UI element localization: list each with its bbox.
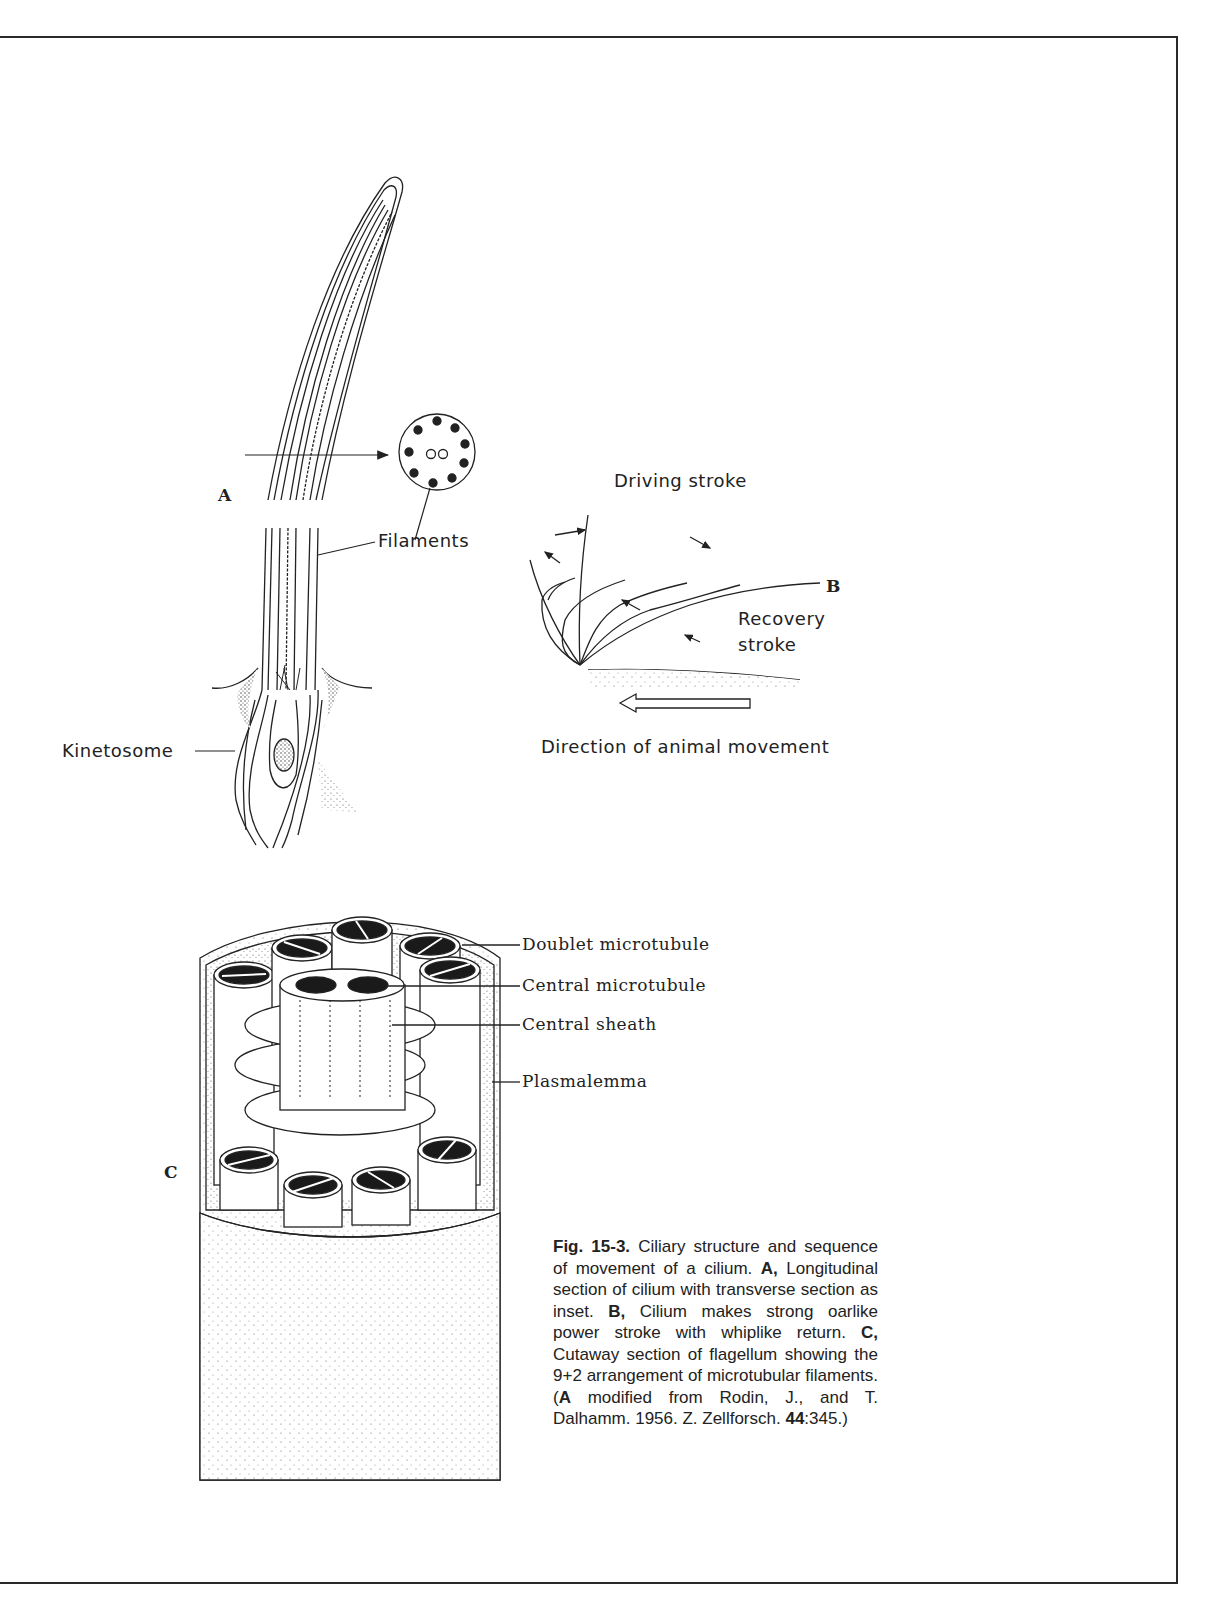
label-plasmalemma: Plasmalemma bbox=[522, 1071, 647, 1091]
panel-b-letter: B bbox=[826, 576, 841, 596]
caption-fig-label: Fig. 15-3. bbox=[553, 1237, 630, 1256]
panel-c-flagellum bbox=[200, 917, 520, 1480]
direction-arrow bbox=[620, 694, 750, 712]
label-central-microtubule: Central microtubule bbox=[522, 975, 706, 995]
panel-c-letter: C bbox=[164, 1162, 178, 1182]
label-doublet-microtubule: Doublet microtubule bbox=[522, 934, 709, 954]
inset-cross-section bbox=[399, 414, 475, 490]
label-driving-stroke: Driving stroke bbox=[614, 470, 747, 491]
label-recovery-stroke-2: stroke bbox=[738, 634, 796, 655]
caption-text-6: :345.) bbox=[804, 1409, 847, 1428]
caption-c-label: C, bbox=[861, 1323, 878, 1342]
caption-a-label: A, bbox=[761, 1259, 778, 1278]
label-recovery-stroke-1: Recovery bbox=[738, 608, 825, 629]
label-filaments: Filaments bbox=[378, 530, 469, 551]
label-kinetosome: Kinetosome bbox=[62, 740, 173, 761]
caption-b-label: B, bbox=[608, 1302, 625, 1321]
panel-a-letter: A bbox=[218, 485, 232, 505]
caption-volume: 44 bbox=[785, 1409, 804, 1428]
figure-caption: Fig. 15-3. Ciliary structure and sequenc… bbox=[553, 1236, 878, 1430]
label-direction: Direction of animal movement bbox=[541, 736, 829, 757]
panel-a-cilium bbox=[212, 177, 403, 848]
caption-a-label-2: A bbox=[559, 1388, 571, 1407]
panel-b-stroke bbox=[530, 515, 820, 680]
label-central-sheath: Central sheath bbox=[522, 1014, 657, 1034]
